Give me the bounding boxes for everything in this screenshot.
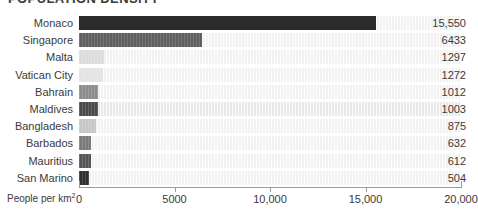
value-label: 1272 bbox=[400, 67, 466, 84]
x-axis-tick-label: 0 bbox=[76, 193, 82, 205]
value-label: 504 bbox=[400, 170, 466, 187]
category-label: Bahrain bbox=[0, 84, 73, 101]
category-label: Maldives bbox=[0, 101, 73, 118]
value-label: 1003 bbox=[400, 101, 466, 118]
value-label: 875 bbox=[400, 118, 466, 135]
x-axis-caption: People per km2 bbox=[7, 192, 75, 204]
bar-monaco[interactable] bbox=[79, 16, 376, 30]
value-label: 15,550 bbox=[400, 15, 466, 32]
value-label: 632 bbox=[400, 135, 466, 152]
bar-bahrain[interactable] bbox=[79, 85, 98, 99]
bar-barbados[interactable] bbox=[79, 136, 91, 150]
x-axis-tick-label: 20,000 bbox=[444, 193, 478, 205]
x-axis-tick bbox=[270, 187, 271, 192]
bar-singapore[interactable] bbox=[79, 33, 202, 47]
category-axis-labels: MonacoSingaporeMaltaVatican CityBahrainM… bbox=[0, 15, 73, 187]
category-label: San Marino bbox=[0, 170, 73, 187]
value-labels: 15,55064331297127210121003875632612504 bbox=[400, 15, 466, 187]
bar-san-marino[interactable] bbox=[79, 171, 89, 185]
bar-mauritius[interactable] bbox=[79, 154, 91, 168]
bar-vatican-city[interactable] bbox=[79, 68, 103, 82]
x-axis-right-cap bbox=[461, 181, 462, 188]
category-label: Vatican City bbox=[0, 67, 73, 84]
x-axis-tick-label: 5000 bbox=[162, 193, 186, 205]
value-label: 1012 bbox=[400, 84, 466, 101]
bar-malta[interactable] bbox=[79, 50, 104, 64]
x-axis-tick-label: 15,000 bbox=[349, 193, 383, 205]
value-label: 1297 bbox=[400, 49, 466, 66]
category-label: Malta bbox=[0, 49, 73, 66]
category-label: Mauritius bbox=[0, 153, 73, 170]
x-axis-tick bbox=[366, 187, 367, 192]
chart-title: POPULATION DENSITY bbox=[8, 0, 159, 5]
x-axis-tick-label: 10,000 bbox=[253, 193, 287, 205]
category-label: Bangladesh bbox=[0, 118, 73, 135]
x-axis-tick bbox=[175, 187, 176, 192]
category-label: Monaco bbox=[0, 15, 73, 32]
value-label: 6433 bbox=[400, 32, 466, 49]
category-label: Barbados bbox=[0, 135, 73, 152]
x-axis-caption-superscript: 2 bbox=[71, 192, 75, 199]
category-label: Singapore bbox=[0, 32, 73, 49]
value-label: 612 bbox=[400, 153, 466, 170]
bar-maldives[interactable] bbox=[79, 102, 98, 116]
x-axis-caption-text: People per km bbox=[7, 193, 71, 204]
bar-bangladesh[interactable] bbox=[79, 119, 96, 133]
